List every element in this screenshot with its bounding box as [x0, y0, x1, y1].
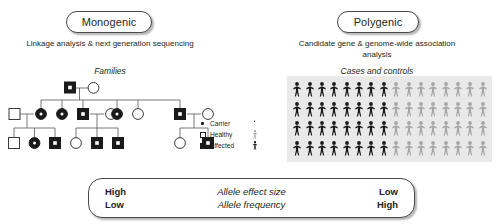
- right-effect-size-value: Low: [377, 185, 398, 198]
- monogenic-subtitle: Linkage analysis & next generation seque…: [20, 38, 200, 49]
- control-person-icon: [465, 141, 475, 156]
- control-person-icon: [465, 102, 475, 117]
- control-person-icon: [404, 141, 414, 156]
- polygenic-subtitle: Candidate gene & genome-wide association…: [287, 38, 467, 60]
- case-person-icon: [366, 102, 376, 117]
- cases-controls-label: Cases and controls: [287, 66, 467, 76]
- allele-effect-size-label: Allele effect size: [89, 185, 414, 198]
- case-person-icon: [329, 141, 339, 156]
- pedigree-gen2: [9, 109, 213, 120]
- legend-row-healthy: Healthy: [197, 129, 259, 140]
- case-person-icon: [317, 141, 327, 156]
- control-person-icon: [453, 82, 463, 97]
- case-person-icon: [292, 121, 302, 136]
- bottom-right-values: Low High: [377, 185, 398, 211]
- control-person-icon: [428, 141, 438, 156]
- case-person-icon: [379, 102, 389, 117]
- case-person-icon: [366, 82, 376, 97]
- control-person-icon: [428, 102, 438, 117]
- case-person-icon: [329, 82, 339, 97]
- affected-person-icon: [250, 141, 259, 150]
- control-person-icon: [478, 102, 488, 117]
- families-label: Families: [40, 66, 180, 76]
- case-person-icon: [342, 141, 352, 156]
- control-person-icon: [465, 82, 475, 97]
- control-person-icon: [453, 102, 463, 117]
- case-person-icon: [354, 141, 364, 156]
- polygenic-header-pill: Polygenic: [337, 11, 419, 33]
- control-person-icon: [478, 82, 488, 97]
- legend-row-carrier: Carrier: [197, 118, 259, 129]
- case-person-icon: [317, 102, 327, 117]
- pedigree-gen1: [65, 82, 99, 93]
- control-person-icon: [391, 102, 401, 117]
- case-person-icon: [354, 121, 364, 136]
- legend-label-carrier: Carrier: [208, 118, 250, 129]
- case-person-icon: [317, 82, 327, 97]
- polygenic-header-label: Polygenic: [354, 16, 403, 28]
- affected-square-icon: [197, 143, 208, 149]
- case-person-icon: [366, 121, 376, 136]
- monogenic-header-label: Monogenic: [82, 16, 137, 28]
- control-person-icon: [416, 102, 426, 117]
- case-person-icon: [292, 82, 302, 97]
- control-person-icon: [416, 121, 426, 136]
- pedigree-gen3: [9, 138, 214, 149]
- control-person-icon: [391, 82, 401, 97]
- case-person-icon: [366, 141, 376, 156]
- case-person-icon: [292, 141, 302, 156]
- control-person-icon: [441, 121, 451, 136]
- case-person-icon: [354, 82, 364, 97]
- control-person-icon: [391, 141, 401, 156]
- case-person-icon: [379, 121, 389, 136]
- control-person-icon: [404, 121, 414, 136]
- case-person-icon: [342, 102, 352, 117]
- case-person-icon: [292, 102, 302, 117]
- case-person-icon: [305, 82, 315, 97]
- right-frequency-value: High: [377, 198, 398, 211]
- bottom-middle-labels: Allele effect size Allele frequency: [89, 185, 414, 211]
- case-person-icon: [317, 121, 327, 136]
- monogenic-header-pill: Monogenic: [66, 11, 152, 33]
- case-person-icon: [354, 102, 364, 117]
- healthy-person-icon: [250, 130, 259, 139]
- control-person-icon: [404, 82, 414, 97]
- control-person-icon: [428, 121, 438, 136]
- healthy-square-icon: [197, 132, 208, 138]
- legend-label-affected: Affected: [208, 140, 250, 151]
- control-person-icon: [404, 102, 414, 117]
- case-person-icon: [379, 141, 389, 156]
- control-person-icon: [478, 121, 488, 136]
- case-person-icon: [342, 121, 352, 136]
- legend-label-healthy: Healthy: [208, 129, 250, 140]
- case-person-icon: [342, 82, 352, 97]
- case-person-icon: [305, 102, 315, 117]
- control-person-icon: [465, 121, 475, 136]
- case-person-icon: [305, 141, 315, 156]
- case-person-icon: [329, 121, 339, 136]
- carrier-person-icon: [250, 120, 259, 128]
- control-person-icon: [428, 82, 438, 97]
- carrier-dot-icon: [197, 122, 208, 125]
- control-person-icon: [391, 121, 401, 136]
- control-person-icon: [478, 141, 488, 156]
- cases-controls-grid: [291, 80, 489, 158]
- allele-comparison-bar: High Low Allele effect size Allele frequ…: [88, 178, 415, 218]
- control-person-icon: [416, 141, 426, 156]
- case-person-icon: [329, 102, 339, 117]
- case-person-icon: [305, 121, 315, 136]
- control-person-icon: [441, 82, 451, 97]
- control-person-icon: [453, 121, 463, 136]
- pedigree-legend: Carrier Healthy Affected: [197, 118, 259, 160]
- control-person-icon: [441, 102, 451, 117]
- control-person-icon: [453, 141, 463, 156]
- case-person-icon: [379, 82, 389, 97]
- control-person-icon: [441, 141, 451, 156]
- control-person-icon: [416, 82, 426, 97]
- allele-frequency-label: Allele frequency: [89, 198, 414, 211]
- legend-row-affected: Affected: [197, 140, 259, 151]
